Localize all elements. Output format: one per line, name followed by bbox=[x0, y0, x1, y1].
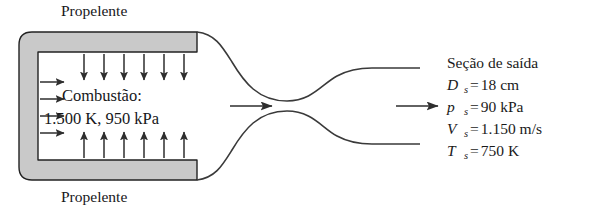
exit-diameter-equals: = bbox=[468, 74, 481, 96]
nozzle-upper-contour bbox=[197, 32, 420, 101]
exit-velocity-symbol: V bbox=[447, 118, 464, 140]
bottom-injection-arrows bbox=[84, 132, 184, 158]
nozzle-lower-contour bbox=[197, 111, 420, 180]
combustion-values-label: 1.500 K, 950 kPa bbox=[44, 111, 159, 128]
rocket-nozzle-figure: Propelente Propelente Combustão: 1.500 K… bbox=[0, 0, 595, 216]
combustion-title-label: Combustão: bbox=[62, 88, 142, 105]
combustion-chamber-wall bbox=[19, 32, 197, 180]
exit-pressure-equals: = bbox=[468, 96, 481, 118]
exit-diameter-symbol: D bbox=[447, 74, 464, 96]
exit-diameter-row: Ds=18 cm bbox=[447, 74, 542, 96]
exit-section-block: Seção de saída Ds=18 cm ps=90 kPa Vs=1.1… bbox=[447, 52, 542, 162]
exit-velocity-value: 1.150 m/s bbox=[481, 120, 542, 137]
propellant-bottom-label: Propelente bbox=[61, 189, 127, 205]
exit-temperature-equals: = bbox=[468, 140, 481, 162]
exit-temperature-row: Ts=750 K bbox=[447, 140, 542, 162]
exit-velocity-row: Vs=1.150 m/s bbox=[447, 118, 542, 140]
propellant-top-label: Propelente bbox=[61, 3, 127, 19]
exit-velocity-equals: = bbox=[468, 118, 481, 140]
exit-pressure-symbol: p bbox=[447, 96, 464, 118]
exit-temperature-value: 750 K bbox=[481, 142, 519, 159]
exit-pressure-value: 90 kPa bbox=[481, 98, 524, 115]
exit-pressure-row: ps=90 kPa bbox=[447, 96, 542, 118]
top-injection-arrows bbox=[84, 54, 184, 80]
exit-section-heading: Seção de saída bbox=[447, 52, 542, 74]
exit-temperature-symbol: T bbox=[447, 140, 464, 162]
exit-diameter-value: 18 cm bbox=[481, 76, 519, 93]
